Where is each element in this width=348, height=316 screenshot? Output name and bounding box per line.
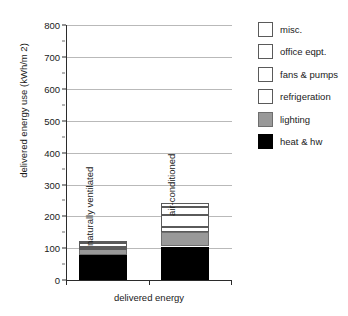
y-axis-line	[66, 25, 67, 281]
ytick-mark-450	[62, 137, 65, 138]
ytick-mark-150	[62, 232, 65, 233]
legend-label-lighting: lighting	[280, 114, 310, 125]
legend-item-lighting[interactable]: lighting	[258, 108, 348, 131]
xtick-mark-right	[231, 280, 232, 285]
y-axis-title-text: delivered energy use (kWh/m	[18, 54, 29, 178]
chart-figure: delivered energy use (kWh/m 2) 800 700 6…	[0, 0, 348, 316]
ytick-label-100: 100	[44, 243, 60, 254]
ytick-mark-250	[62, 200, 65, 201]
ytick-label-0: 0	[55, 275, 60, 286]
xtick-mark-left	[66, 280, 67, 285]
xtick-mark-center	[149, 280, 150, 285]
legend-label-misc: misc.	[280, 24, 302, 35]
legend-swatch-refrigeration-icon	[258, 89, 273, 104]
bar-segment-fans-pumps[interactable]	[79, 247, 127, 249]
ytick-label-300: 300	[44, 180, 60, 191]
bar-segment-fans-pumps[interactable]	[161, 215, 209, 227]
bar-naturally-ventilated[interactable]	[79, 0, 127, 316]
bar-segment-refrigeration[interactable]	[161, 227, 209, 232]
legend-label-fans-pumps: fans & pumps	[280, 69, 338, 80]
chart-legend: misc. office eqpt. fans & pumps refriger…	[258, 18, 348, 153]
ytick-label-600: 600	[44, 84, 60, 95]
ytick-mark-550	[62, 105, 65, 106]
legend-item-misc[interactable]: misc.	[258, 18, 348, 41]
bar-segment-heat-hw[interactable]	[161, 247, 209, 281]
bar-label-naturally-ventilated: naturally ventilated	[84, 167, 95, 246]
ytick-label-200: 200	[44, 211, 60, 222]
ytick-label-800: 800	[44, 20, 60, 31]
legend-swatch-heat-hw-icon	[258, 134, 273, 149]
legend-swatch-office-eqpt-icon	[258, 44, 273, 59]
ytick-mark-750	[62, 41, 65, 42]
legend-swatch-fans-pumps-icon	[258, 67, 273, 82]
y-axis-tick-labels: 800 700 600 500 400 300 200 100 0	[28, 0, 60, 316]
ytick-mark-650	[62, 73, 65, 74]
legend-label-heat-hw: heat & hw	[280, 136, 322, 147]
bar-segment-heat-hw[interactable]	[79, 255, 127, 280]
ytick-label-400: 400	[44, 148, 60, 159]
bar-segment-lighting[interactable]	[79, 249, 127, 255]
bar-label-air-conditioned: air-conditioned	[166, 154, 177, 216]
legend-item-fans-pumps[interactable]: fans & pumps	[258, 63, 348, 86]
ytick-mark-50	[62, 264, 65, 265]
legend-swatch-misc-icon	[258, 22, 273, 37]
ytick-mark-350	[62, 169, 65, 170]
legend-item-refrigeration[interactable]: refrigeration	[258, 86, 348, 109]
legend-item-office-eqpt[interactable]: office eqpt.	[258, 41, 348, 64]
bar-segment-lighting[interactable]	[161, 232, 209, 246]
ytick-label-700: 700	[44, 52, 60, 63]
y-axis-title: delivered energy use (kWh/m 2)	[18, 6, 29, 216]
ytick-label-500: 500	[44, 116, 60, 127]
x-axis-title: delivered energy	[66, 292, 232, 303]
y-axis-title-superscript: 2)	[18, 43, 29, 54]
legend-label-refrigeration: refrigeration	[280, 91, 331, 102]
legend-label-office-eqpt: office eqpt.	[280, 46, 326, 57]
legend-item-heat-hw[interactable]: heat & hw	[258, 131, 348, 154]
legend-swatch-lighting-icon	[258, 112, 273, 127]
